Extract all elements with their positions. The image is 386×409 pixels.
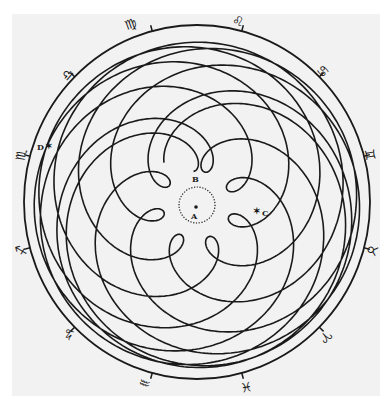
libra-sign: ♎ [58,65,77,84]
point-A-label: A [190,211,198,221]
cancer-sign: ♋ [313,62,332,81]
tick-mark [242,373,244,379]
zodiac-signs: ♍♌♋♊♉♈♓♒♑♐♏♎ [12,12,381,395]
virgo-sign: ♍ [123,15,139,33]
gemini-sign: ♊ [362,148,379,162]
aquarius-sign: ♒ [137,374,153,392]
point-A-dot [194,205,198,209]
aries-sign: ♈ [316,327,335,346]
capricorn-sign: ♑ [60,324,79,343]
sagittarius-sign: ♐ [12,243,30,258]
mars-geocentric-path [34,42,359,367]
point-C-star: ✶ [253,206,261,216]
point-C-label: C [262,208,268,218]
point-B-label: B [192,174,199,184]
pisces-sign: ♓ [239,379,253,396]
point-D-star: ✶ [45,141,53,151]
point-D-label: D [37,142,44,152]
mars-orbit-diagram: ♍♌♋♊♉♈♓♒♑♐♏♎ AB✶C✶D [0,0,386,409]
tick-mark [151,25,153,31]
scorpio-sign: ♏ [13,148,30,162]
